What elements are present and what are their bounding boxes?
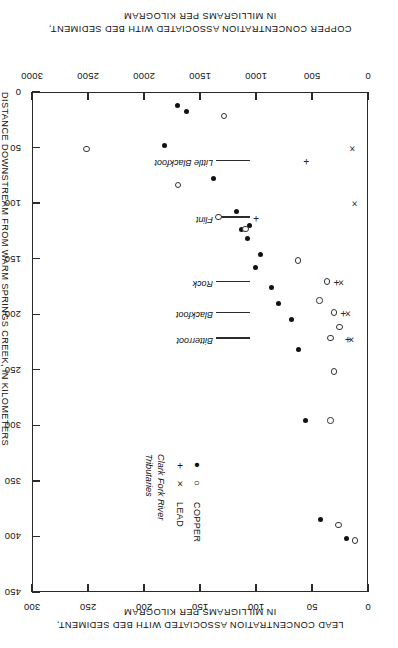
data-point-copper-mainstem — [175, 103, 180, 108]
lead-tick — [87, 584, 88, 592]
tributary-label: Little Blackfoot — [154, 158, 213, 168]
copper-tick — [87, 92, 88, 100]
legend-symbol-copper-mainstem: ● — [194, 460, 200, 470]
distance-tick-label: 450 — [5, 587, 21, 598]
data-point-copper-tributary — [215, 214, 221, 220]
lead-tick — [311, 584, 312, 592]
data-point-lead-tributary: × — [352, 198, 358, 208]
legend-label-tributary: Tributaries — [144, 454, 154, 497]
data-point-copper-tributary — [336, 324, 342, 330]
tributary-label: Flint — [196, 215, 213, 225]
distance-tick — [32, 314, 40, 315]
data-point-copper-mainstem — [258, 252, 263, 257]
distance-tick-label: 0 — [16, 87, 21, 98]
tributary-leader-line — [216, 337, 250, 338]
data-point-lead-tributary: × — [338, 277, 344, 287]
copper-tick — [143, 92, 144, 100]
distance-tick — [32, 258, 40, 259]
copper-tick — [199, 92, 200, 100]
tributary-leader-line — [216, 281, 250, 282]
data-point-copper-tributary — [331, 368, 337, 374]
copper-tick-label: 2000 — [133, 71, 155, 82]
lead-tick-label: 150 — [192, 602, 208, 613]
copper-tick-label: 3000 — [21, 71, 43, 82]
distance-tick-label: 250 — [5, 364, 21, 375]
lead-tick-label: 50 — [307, 602, 318, 613]
tributary-leader-line — [216, 312, 250, 313]
distance-tick — [32, 425, 40, 426]
data-point-copper-tributary — [352, 537, 358, 543]
distance-tick — [32, 202, 40, 203]
data-point-copper-tributary — [316, 297, 322, 303]
tributary-callout: Flint — [126, 212, 250, 224]
legend-header-lead: LEAD — [175, 502, 185, 527]
copper-tick-label: 1500 — [189, 71, 211, 82]
copper-tick-label: 1000 — [245, 71, 267, 82]
copper-axis-title-line1: COPPER CONCENTRATION ASSOCIATED WITH BED… — [32, 24, 368, 34]
legend-label-mainstem: Clark Fork River — [156, 454, 166, 520]
copper-tick — [31, 92, 32, 100]
distance-tick — [32, 147, 40, 148]
figure-page: LEAD CONCENTRATION ASSOCIATED WITH BED S… — [0, 0, 398, 648]
distance-tick-label: 350 — [5, 475, 21, 486]
tributary-callout: Blackfoot — [126, 307, 250, 319]
data-point-copper-tributary — [83, 146, 89, 152]
lead-axis-title-line1: LEAD CONCENTRATION ASSOCIATED WITH BED S… — [32, 620, 368, 630]
copper-tick — [367, 92, 368, 100]
lead-tick-label: 200 — [136, 602, 152, 613]
data-point-copper-mainstem — [245, 236, 250, 241]
legend-symbol-lead-tributary: × — [177, 478, 183, 488]
distance-tick-label: 300 — [5, 420, 21, 431]
tributary-label: Blackfoot — [176, 310, 213, 320]
lead-tick-label: 0 — [365, 602, 370, 613]
distance-tick — [32, 369, 40, 370]
data-point-lead-tributary: × — [345, 308, 351, 318]
distance-tick — [32, 536, 40, 537]
legend: COPPER LEAD ○ × ● + Clark Fork River Tri… — [52, 452, 202, 562]
distance-tick-label: 400 — [5, 531, 21, 542]
distance-tick-label: 100 — [5, 198, 21, 209]
data-point-lead-tributary: × — [348, 334, 354, 344]
distance-tick-label: 150 — [5, 253, 21, 264]
distance-tick — [32, 591, 40, 592]
lead-tick — [199, 584, 200, 592]
data-point-lead-tributary: × — [349, 143, 355, 153]
data-point-copper-tributary — [324, 278, 330, 284]
data-point-copper-tributary — [327, 417, 333, 423]
copper-tick — [311, 92, 312, 100]
distance-tick — [32, 480, 40, 481]
legend-symbol-lead-mainstem: + — [177, 460, 183, 470]
copper-tick-label: 0 — [365, 71, 370, 82]
lead-tick-label: 250 — [80, 602, 96, 613]
lead-tick — [255, 584, 256, 592]
distance-axis-title: DISTANCE DOWNSTREAM FROM WARM SPRINGS CR… — [0, 92, 10, 446]
data-point-copper-tributary — [335, 522, 341, 528]
data-point-copper-mainstem — [162, 143, 167, 148]
tributary-label: Rock — [192, 279, 213, 289]
tributary-label: Bitterroot — [176, 336, 213, 346]
lead-tick-label: 100 — [248, 602, 264, 613]
data-point-copper-mainstem — [276, 301, 281, 306]
data-point-lead-mainstem: + — [253, 213, 259, 223]
legend-symbol-copper-tributary: ○ — [194, 478, 200, 488]
distance-tick — [32, 91, 40, 92]
copper-tick-label: 500 — [304, 71, 320, 82]
rotated-figure: LEAD CONCENTRATION ASSOCIATED WITH BED S… — [0, 0, 398, 648]
data-point-lead-mainstem: + — [303, 156, 309, 166]
tributary-callout: Rock — [126, 276, 250, 288]
copper-tick-label: 2500 — [77, 71, 99, 82]
lead-tick — [367, 584, 368, 592]
tributary-leader-line — [216, 160, 250, 161]
lead-tick — [143, 584, 144, 592]
copper-axis-title-line2: IN MILLIGRAMS PER KILOGRAM — [32, 11, 368, 21]
data-point-copper-tributary — [295, 257, 301, 263]
data-point-copper-tributary — [242, 226, 248, 232]
distance-tick-label: 200 — [5, 309, 21, 320]
data-point-copper-tributary — [327, 335, 333, 341]
copper-tick — [255, 92, 256, 100]
distance-tick-label: 50 — [10, 142, 21, 153]
data-point-copper-tributary — [331, 309, 337, 315]
legend-header-copper: COPPER — [192, 502, 202, 542]
tributary-callout: Bitterroot — [126, 333, 250, 345]
lead-tick-label: 300 — [24, 602, 40, 613]
